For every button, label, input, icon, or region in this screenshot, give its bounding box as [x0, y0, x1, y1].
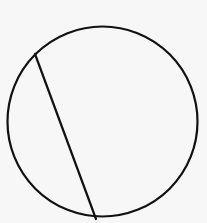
- diagram-canvas: [0, 0, 207, 223]
- chord-line: [35, 54, 96, 219]
- circle-chord-figure: [0, 0, 207, 223]
